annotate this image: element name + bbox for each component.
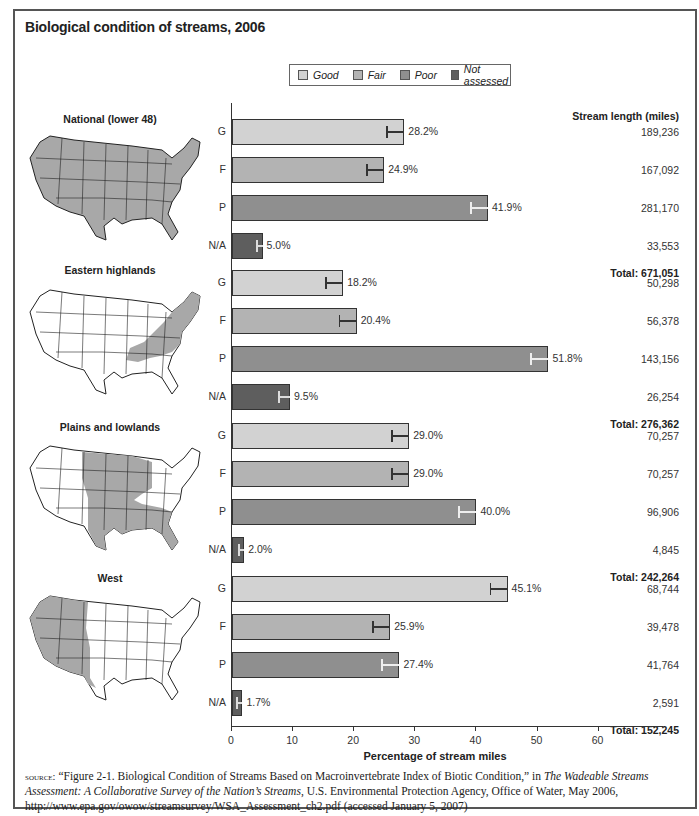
error-bar-cap	[238, 544, 240, 556]
us-map-eastern-highlands	[22, 282, 208, 402]
value-label: 24.9%	[388, 163, 418, 175]
error-bar	[391, 473, 409, 475]
value-label: 9.5%	[294, 390, 318, 402]
us-map-plains-lowlands	[22, 438, 208, 558]
value-label: 40.0%	[480, 505, 510, 517]
stream-miles: 281,170	[641, 202, 679, 214]
legend-label: Poor	[415, 69, 437, 81]
value-label: 29.0%	[413, 429, 443, 441]
legend-swatch-poor	[400, 70, 410, 80]
error-bar-cap	[381, 659, 383, 671]
region-total-miles: Total: 242,264	[610, 571, 679, 583]
source-prefix: source:	[25, 771, 56, 782]
bar-f-0	[232, 157, 384, 183]
bar-p-2	[232, 499, 476, 525]
legend-label: Not assessed	[464, 63, 511, 87]
value-label: 28.2%	[408, 125, 438, 137]
legend-item-good: Good	[298, 69, 339, 81]
value-label: 20.4%	[361, 314, 391, 326]
error-bar-cap	[391, 468, 393, 480]
region-title-national: National (lower 48)	[20, 113, 200, 125]
value-label: 1.7%	[246, 696, 270, 708]
x-tick	[231, 726, 232, 731]
x-tick-label: 40	[470, 734, 482, 746]
error-bar-cap	[490, 583, 492, 595]
source-text-1: “Figure 2-1. Biological Condition of Str…	[56, 770, 544, 782]
stream-miles: 143,156	[641, 353, 679, 365]
bar-p-1	[232, 346, 548, 372]
bar-g-3	[232, 576, 508, 602]
value-label: 18.2%	[347, 276, 377, 288]
value-label: 2.0%	[248, 543, 272, 555]
legend-label: Fair	[368, 69, 386, 81]
error-bar-cap	[372, 621, 374, 633]
x-tick	[292, 726, 293, 731]
stream-miles: 4,845	[653, 544, 679, 556]
stream-miles: 96,906	[647, 506, 679, 518]
stream-miles: 39,478	[647, 621, 679, 633]
y-axis	[231, 103, 232, 726]
error-bar-cap	[236, 697, 238, 709]
legend-swatch-fair	[353, 70, 363, 80]
x-tick	[353, 726, 354, 731]
bar-g-0	[232, 119, 404, 145]
error-bar-cap	[386, 126, 388, 138]
error-bar-cap	[530, 353, 532, 365]
legend-item-poor: Poor	[400, 69, 437, 81]
value-label: 45.1%	[512, 582, 542, 594]
region-total-miles: Total: 276,362	[610, 418, 679, 430]
x-axis-label: Percentage of stream miles	[320, 750, 550, 762]
error-bar	[530, 358, 548, 360]
source-citation: source: “Figure 2-1. Biological Conditio…	[25, 769, 675, 814]
chart-title: Biological condition of streams, 2006	[25, 19, 265, 35]
stream-length-header: Stream length (miles)	[572, 110, 679, 122]
x-tick-label: 10	[286, 734, 298, 746]
stream-miles: 70,257	[647, 468, 679, 480]
value-label: 29.0%	[413, 467, 443, 479]
error-bar-cap	[256, 240, 258, 252]
error-bar-cap	[366, 164, 368, 176]
bar-f-2	[232, 461, 409, 487]
stream-miles: 189,236	[641, 126, 679, 138]
value-label: 27.4%	[403, 658, 433, 670]
error-bar	[386, 131, 404, 133]
value-label: 51.8%	[552, 352, 582, 364]
error-bar	[366, 169, 384, 171]
stream-miles: 50,298	[647, 277, 679, 289]
bar-f-3	[232, 614, 390, 640]
stream-miles: 41,764	[647, 659, 679, 671]
value-label: 25.9%	[394, 620, 424, 632]
error-bar	[278, 396, 290, 398]
legend-swatch-good	[298, 70, 308, 80]
x-tick	[475, 726, 476, 731]
error-bar	[490, 588, 508, 590]
x-tick-label: 0	[228, 734, 234, 746]
value-label: 41.9%	[492, 201, 522, 213]
x-tick-label: 50	[531, 734, 543, 746]
stream-miles: 2,591	[653, 697, 679, 709]
x-tick-label: 30	[408, 734, 420, 746]
bar-p-0	[232, 195, 488, 221]
region-title-eastern-highlands: Eastern highlands	[20, 264, 200, 276]
stream-miles: 33,553	[647, 240, 679, 252]
region-title-west: West	[20, 572, 200, 584]
bar-g-2	[232, 423, 409, 449]
region-title-plains-lowlands: Plains and lowlands	[20, 421, 200, 433]
x-tick	[598, 726, 599, 731]
stream-miles: 70,257	[647, 430, 679, 442]
legend-item-not-assessed: Not assessed	[451, 63, 510, 87]
bar-p-3	[232, 652, 399, 678]
error-bar	[339, 320, 357, 322]
x-tick-label: 20	[347, 734, 359, 746]
error-bar	[325, 282, 343, 284]
legend-swatch-not-assessed	[451, 70, 459, 80]
error-bar-cap	[458, 506, 460, 518]
x-tick-label: 60	[592, 734, 604, 746]
stream-miles: 56,378	[647, 315, 679, 327]
error-bar-cap	[391, 430, 393, 442]
x-tick	[537, 726, 538, 731]
stream-miles: 68,744	[647, 583, 679, 595]
stream-miles: 167,092	[641, 164, 679, 176]
error-bar	[372, 626, 390, 628]
error-bar-cap	[470, 202, 472, 214]
